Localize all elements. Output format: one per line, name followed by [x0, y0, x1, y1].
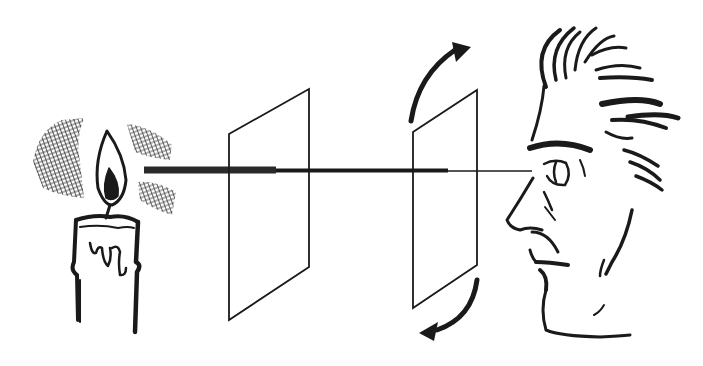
observer-face-icon: [507, 28, 678, 337]
rotation-arrow-up-icon: [411, 42, 471, 121]
light-beam: [144, 170, 532, 171]
rotation-arrow-down-icon: [419, 280, 477, 341]
polarizer-2: [413, 90, 477, 308]
polarizer-1: [229, 89, 309, 320]
candle-icon: [73, 131, 140, 332]
polarization-diagram: [0, 0, 703, 366]
